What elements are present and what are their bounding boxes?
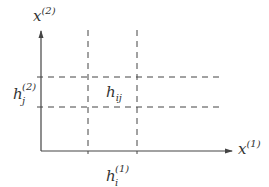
height-label: h (2) j	[13, 86, 23, 102]
height-label-sup: (2)	[22, 82, 36, 92]
width-label-sup: (1)	[115, 164, 129, 174]
y-axis-label-sup: (2)	[41, 5, 55, 16]
cell-label-base: h	[106, 83, 116, 101]
width-label-stack: h (1) i	[106, 168, 116, 184]
height-label-sub: j	[22, 96, 25, 106]
cell-label: hij	[106, 84, 122, 100]
diagram-canvas	[0, 0, 269, 187]
x-axis-label-sup: (1)	[246, 138, 260, 149]
width-label: h (1) i	[106, 168, 116, 184]
x-axis-label: x(1)	[238, 141, 261, 157]
cell-label-sub: ij	[116, 92, 122, 103]
y-axis-label: x(2)	[33, 8, 56, 24]
width-label-sub: i	[115, 178, 118, 187]
grid-diagram: x(2) x(1) hij h (2) j h (1) i	[0, 0, 269, 187]
height-label-stack: h (2) j	[13, 86, 23, 102]
